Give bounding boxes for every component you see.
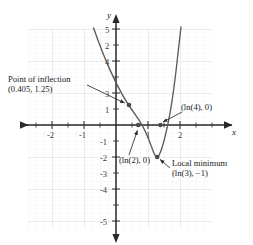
annotation-local-minimum-line2: (ln(3), −1) — [172, 168, 227, 178]
y-tick-label--4: -4 — [100, 185, 107, 195]
y-tick-label--5: -5 — [100, 217, 107, 227]
y-tick-label--3: -3 — [100, 169, 107, 179]
point-root-ln2 — [136, 123, 141, 128]
x-tick-label-2: 2 — [178, 130, 182, 140]
y-tick-label-2: 2 — [105, 41, 109, 51]
point-local-minimum — [155, 155, 160, 160]
y-tick-label-4: 4 — [105, 57, 109, 67]
y-tick-label-5: 5 — [105, 25, 109, 35]
annotation-inflection-line2: (0.405, 1.25) — [8, 84, 71, 94]
annotation-root-ln4: (ln(4), 0) — [181, 102, 212, 112]
grid-major — [28, 28, 212, 228]
y-tick-label-3: 3 — [105, 89, 109, 99]
y-tick-label--2: -2 — [100, 153, 107, 163]
y-axis-label: y — [107, 10, 111, 21]
annotation-local-minimum-line1: Local minimum — [172, 158, 227, 168]
coordinate-plane — [0, 0, 253, 245]
y-tick-label--1: -1 — [100, 137, 107, 147]
x-tick-label--1: -1 — [79, 130, 86, 140]
point-inflection — [127, 103, 132, 108]
annotation-inflection-line1: Point of inflection — [8, 74, 71, 84]
graph-figure: x y -2 -1 1 2 5 4 3 2 1 -1 -2 -3 -4 -5 P… — [0, 0, 253, 245]
point-root-ln4 — [158, 123, 163, 128]
x-axis-label: x — [232, 127, 236, 138]
x-tick-label-1: 1 — [146, 130, 150, 140]
annotation-root-ln2: (ln(2), 0) — [119, 155, 150, 165]
annotation-inflection: Point of inflection (0.405, 1.25) — [8, 74, 71, 94]
x-tick-label--2: -2 — [47, 130, 54, 140]
y-tick-label-1: 1 — [105, 105, 109, 115]
annotation-local-minimum: Local minimum (ln(3), −1) — [172, 158, 227, 178]
